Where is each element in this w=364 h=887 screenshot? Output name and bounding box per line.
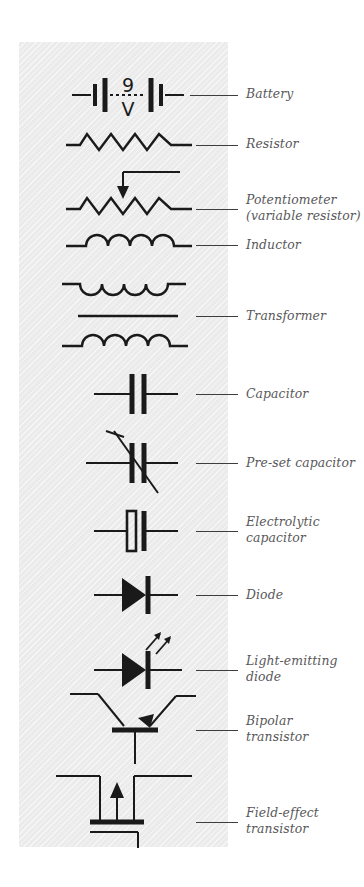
leader-line-preset-capacitor	[196, 463, 238, 464]
label-transformer: Transformer	[246, 308, 326, 324]
leader-line-fet	[196, 822, 238, 823]
field-effect-transistor-symbol	[56, 772, 196, 848]
resistor-symbol	[66, 128, 192, 154]
leader-line-battery	[190, 95, 238, 96]
diode-symbol	[94, 573, 178, 617]
preset-capacitor-symbol	[86, 425, 186, 497]
inductor-symbol	[66, 222, 192, 252]
leader-line-transformer	[196, 316, 238, 317]
bipolar-transistor-symbol	[62, 690, 196, 766]
label-resistor: Resistor	[246, 136, 299, 152]
led-symbol	[94, 626, 190, 692]
leader-line-potentiometer	[196, 209, 238, 210]
electrolytic-capacitor-symbol	[94, 508, 178, 554]
leader-line-diode	[196, 595, 238, 596]
label-led: Light-emitting diode	[246, 653, 338, 685]
battery-voltage-value: 9	[122, 74, 134, 96]
battery-symbol: 9 V	[72, 70, 184, 120]
transformer-symbol	[62, 280, 194, 352]
label-diode: Diode	[246, 587, 283, 603]
leader-line-bipolar-transistor	[196, 730, 238, 731]
leader-line-inductor	[196, 245, 238, 246]
leader-line-resistor	[196, 145, 238, 146]
label-inductor: Inductor	[246, 237, 301, 253]
leader-line-led	[196, 670, 238, 671]
label-capacitor: Capacitor	[246, 386, 308, 402]
label-fet: Field-effect transistor	[246, 805, 319, 837]
battery-voltage-unit: V	[122, 98, 135, 120]
leader-line-capacitor	[196, 394, 238, 395]
label-bipolar-transistor: Bipolar transistor	[246, 713, 308, 745]
figure-page: 9 V Battery Resistor Potentiometer (vari…	[0, 0, 364, 887]
label-preset-capacitor: Pre-set capacitor	[246, 455, 355, 471]
potentiometer-symbol	[66, 168, 192, 218]
label-battery: Battery	[246, 86, 293, 102]
label-potentiometer: Potentiometer (variable resistor)	[246, 192, 361, 224]
capacitor-symbol	[94, 372, 178, 416]
label-electrolytic-capacitor: Electrolytic capacitor	[246, 514, 320, 546]
leader-line-electrolytic-capacitor	[196, 531, 238, 532]
